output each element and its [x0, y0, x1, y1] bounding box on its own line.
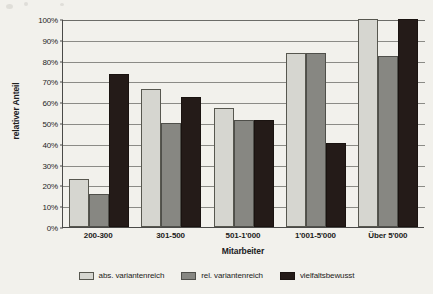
- y-axis-tick-label: 60%: [42, 99, 58, 108]
- bar-group: [280, 20, 352, 227]
- scan-artifact: [24, 2, 28, 6]
- bar[interactable]: [254, 120, 274, 227]
- x-axis-tick-label: 200-300: [62, 231, 134, 240]
- legend-item[interactable]: vielfaltsbewusst: [280, 271, 354, 280]
- bar[interactable]: [141, 89, 161, 227]
- plot-area: 100%90%80%70%60%50%40%30%20%10%0%: [62, 20, 424, 228]
- chart-legend: abs. variantenreichrel. variantenreichvi…: [0, 271, 433, 280]
- y-axis-tick-label: 10%: [42, 203, 58, 212]
- bar[interactable]: [109, 74, 129, 227]
- y-axis-title: relativer Anteil: [11, 51, 21, 171]
- x-axis-tick-labels: 200-300301-500501-1'0001'001-5'000Über 5…: [62, 231, 424, 240]
- bar[interactable]: [358, 19, 378, 227]
- legend-swatch-icon: [79, 272, 94, 280]
- y-axis-tick-label: 80%: [42, 57, 58, 66]
- bar[interactable]: [378, 56, 398, 227]
- legend-item[interactable]: rel. variantenreich: [181, 271, 263, 280]
- bar[interactable]: [234, 120, 254, 227]
- y-axis-tick-label: 70%: [42, 78, 58, 87]
- bar[interactable]: [326, 143, 346, 227]
- y-axis-tick-label: 100%: [38, 16, 58, 25]
- bar[interactable]: [69, 179, 89, 227]
- bar-group: [135, 20, 207, 227]
- y-axis-tick-label: 40%: [42, 140, 58, 149]
- y-axis-tick-label: 50%: [42, 120, 58, 129]
- bar[interactable]: [161, 123, 181, 227]
- bars-layer: [63, 20, 424, 227]
- legend-label: vielfaltsbewusst: [300, 271, 354, 280]
- bar-group: [63, 20, 135, 227]
- bar[interactable]: [286, 53, 306, 227]
- bar[interactable]: [398, 19, 418, 227]
- bar[interactable]: [181, 97, 201, 227]
- y-axis-tick-label: 90%: [42, 36, 58, 45]
- y-axis-tick-label: 20%: [42, 182, 58, 191]
- y-axis-tick-label: 30%: [42, 161, 58, 170]
- x-axis-tick-label: 501-1'000: [207, 231, 279, 240]
- x-axis-tick-label: 301-500: [134, 231, 206, 240]
- x-axis-tick-label: 1'001-5'000: [279, 231, 351, 240]
- y-axis-tick-mark: [60, 228, 63, 229]
- y-axis-tick-label: 0%: [47, 224, 58, 233]
- scan-artifact: [6, 4, 13, 9]
- x-axis-title: Mitarbeiter: [62, 246, 424, 256]
- x-axis-tick-label: Über 5'000: [352, 231, 424, 240]
- bar-group: [352, 20, 424, 227]
- legend-label: rel. variantenreich: [201, 271, 263, 280]
- legend-label: abs. variantenreich: [99, 271, 165, 280]
- bar[interactable]: [89, 194, 109, 227]
- bar[interactable]: [306, 53, 326, 227]
- scan-artifact: [60, 3, 64, 6]
- legend-swatch-icon: [280, 272, 295, 280]
- bar-group: [207, 20, 279, 227]
- bar-chart-figure: relativer Anteil 100%90%80%70%60%50%40%3…: [0, 0, 433, 294]
- legend-swatch-icon: [181, 272, 196, 280]
- bar[interactable]: [214, 108, 234, 227]
- legend-item[interactable]: abs. variantenreich: [79, 271, 165, 280]
